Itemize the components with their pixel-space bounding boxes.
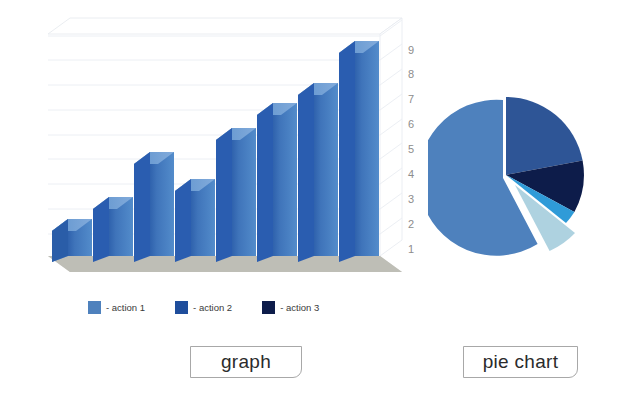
caption-graph-label: graph <box>221 351 271 373</box>
bar-item <box>134 152 174 262</box>
y-axis-tick-6: 6 <box>408 119 422 130</box>
y-axis-tick-2: 2 <box>408 219 422 230</box>
bar-item <box>257 103 297 262</box>
pie-chart <box>428 78 613 273</box>
legend-item-action-2: - action 2 <box>175 301 232 314</box>
legend-label: - action 3 <box>280 302 319 313</box>
bar-item <box>298 83 338 262</box>
y-axis-tick-7: 7 <box>408 94 422 105</box>
bar-item <box>216 128 256 262</box>
y-axis-tick-9: 9 <box>408 45 422 56</box>
figure-canvas: 9 8 7 6 5 4 3 2 1 - action 1 - action 2 … <box>0 0 635 405</box>
legend-item-action-3: - action 3 <box>262 301 319 314</box>
y-axis-tick-4: 4 <box>408 169 422 180</box>
y-axis-tick-1: 1 <box>408 244 422 255</box>
legend-swatch-icon <box>88 301 101 314</box>
caption-box-pie-chart[interactable]: pie chart <box>463 346 578 378</box>
y-axis-tick-5: 5 <box>408 144 422 155</box>
y-axis-tick-3: 3 <box>408 194 422 205</box>
bar-item <box>93 197 133 262</box>
legend-label: - action 2 <box>193 302 232 313</box>
y-axis-tick-8: 8 <box>408 69 422 80</box>
legend-swatch-icon <box>262 301 275 314</box>
legend-swatch-icon <box>175 301 188 314</box>
legend-item-action-1: - action 1 <box>88 301 145 314</box>
pie-chart-plot-area <box>428 78 613 273</box>
caption-box-graph[interactable]: graph <box>190 346 302 378</box>
bar-chart-plot-area <box>18 12 418 282</box>
bar-chart: 9 8 7 6 5 4 3 2 1 <box>18 12 418 282</box>
bar-item <box>339 41 379 262</box>
legend-label: - action 1 <box>106 302 145 313</box>
chart-legend: - action 1 - action 2 - action 3 <box>88 297 378 317</box>
caption-pie-label: pie chart <box>483 351 559 373</box>
bar-item <box>175 179 215 262</box>
